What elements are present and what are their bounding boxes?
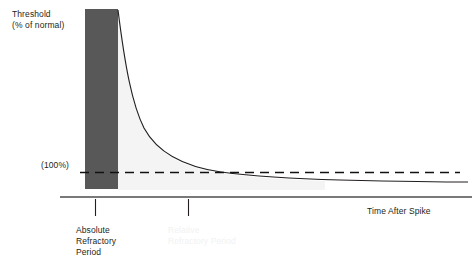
absolute-refractory-block [85, 9, 118, 189]
y-axis-title: Threshold (% of normal) [12, 9, 64, 31]
refractory-period-diagram [0, 0, 472, 277]
relative-refractory-shading [118, 10, 325, 190]
baseline-value-label: (100%) [41, 160, 69, 171]
relative-refractory-period-label: Relative Refractory Period [168, 225, 236, 247]
x-axis-title: Time After Spike [367, 206, 431, 217]
threshold-curve [118, 10, 468, 182]
absolute-refractory-period-label: Absolute Refractory Period [76, 225, 116, 258]
